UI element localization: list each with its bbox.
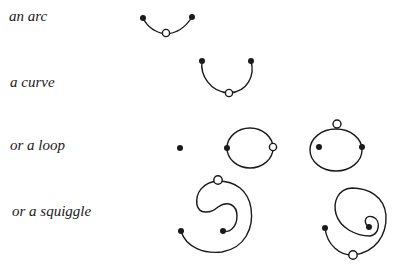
squiggle-figure-1 — [178, 176, 252, 253]
loop-single-dot — [177, 145, 183, 151]
squiggle1-start-dot — [178, 228, 184, 234]
loop1-open-circle — [269, 143, 276, 150]
loop-figure-1 — [224, 128, 277, 168]
diagram-canvas: an arc a curve or a loop or a squiggle — [0, 0, 397, 271]
squiggle1-open-circle — [214, 176, 222, 184]
curve-open-circle — [225, 89, 232, 96]
loop2-inner-dot — [316, 144, 322, 150]
loop1-dot — [224, 145, 230, 151]
squiggle2-start-dot — [322, 225, 328, 231]
arc-endpoint-dot-left — [140, 15, 146, 21]
squiggle2-open-circle — [349, 251, 357, 259]
squiggle1-end-dot — [220, 228, 226, 234]
curve-figure — [199, 58, 254, 97]
arc-figure — [140, 14, 195, 37]
loop-figure-2 — [310, 120, 365, 171]
loop2-edge-dot — [359, 144, 365, 150]
figures-svg — [0, 0, 397, 271]
curve-endpoint-dot-left — [199, 58, 205, 64]
loop2-open-circle — [333, 120, 341, 128]
arc-open-circle — [162, 29, 169, 36]
curve-endpoint-dot-right — [248, 58, 254, 64]
arc-endpoint-dot-right — [189, 14, 195, 20]
squiggle2-end-dot — [366, 224, 372, 230]
squiggle-figure-2 — [322, 188, 386, 259]
